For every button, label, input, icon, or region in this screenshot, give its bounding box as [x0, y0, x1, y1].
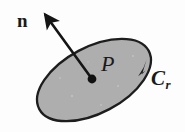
point-label-p: P: [101, 53, 114, 75]
figure-canvas: n P Cr: [0, 0, 185, 132]
curve-label-base: C: [151, 66, 165, 90]
curve-label-subscript: r: [166, 77, 171, 92]
point-marker-p: [88, 75, 97, 84]
normal-vector-label: n: [17, 11, 28, 30]
curve-label-cr: Cr: [151, 68, 171, 91]
